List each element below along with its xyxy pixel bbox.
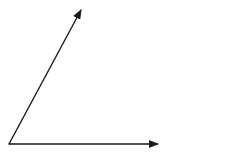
upper-ray-arrow xyxy=(9,10,81,144)
angle-diagram xyxy=(0,0,229,166)
angle-figure xyxy=(0,0,229,166)
vertex-point xyxy=(8,143,9,144)
